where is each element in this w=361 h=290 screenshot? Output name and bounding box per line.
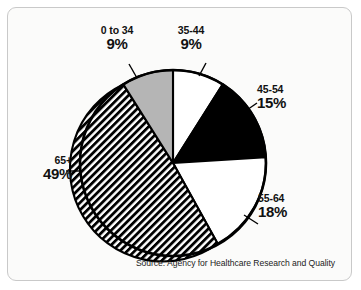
pie-label-55-64-percent: 18% bbox=[258, 204, 320, 220]
pie-label-35-44-percent: 9% bbox=[160, 36, 222, 52]
pie-label-65-plus-percent: 49% bbox=[10, 166, 72, 182]
leader-line-0-to-34 bbox=[129, 64, 137, 78]
pie-label-55-64: 55-64 18% bbox=[258, 193, 320, 220]
pie-label-0-to-34: 0 to 34 9% bbox=[86, 25, 148, 52]
pie-label-65-plus: 65+ 49% bbox=[10, 155, 72, 182]
pie-label-35-44: 35-44 9% bbox=[160, 25, 222, 52]
chart-card: 0 to 34 9% 35-44 9% 45-54 15% 55-64 18% … bbox=[7, 7, 352, 281]
pie-label-45-54-percent: 15% bbox=[257, 95, 319, 111]
source-attribution: Source: Agency for Healthcare Research a… bbox=[8, 258, 335, 268]
pie-label-45-54: 45-54 15% bbox=[257, 84, 319, 111]
pie-label-0-to-34-percent: 9% bbox=[86, 36, 148, 52]
